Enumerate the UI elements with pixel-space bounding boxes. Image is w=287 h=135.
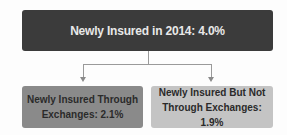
not-through-exchanges-line1: Newly Insured But Not bbox=[151, 85, 273, 100]
newly-insured-total-box: Newly Insured in 2014: 4.0% bbox=[22, 10, 273, 51]
connector-left-drop bbox=[83, 64, 84, 78]
connector-vertical bbox=[148, 51, 149, 64]
connector-horizontal bbox=[83, 64, 212, 65]
connector-right-drop bbox=[211, 64, 212, 78]
not-through-exchanges-box: Newly Insured But Not Through Exchanges:… bbox=[151, 86, 273, 128]
arrow-down-icon bbox=[80, 77, 86, 82]
arrow-down-icon bbox=[208, 77, 214, 82]
through-exchanges-line1: Newly Insured Through bbox=[27, 92, 138, 107]
through-exchanges-box: Newly Insured Through Exchanges: 2.1% bbox=[22, 86, 143, 128]
newly-insured-total-label: Newly Insured in 2014: 4.0% bbox=[70, 24, 225, 38]
through-exchanges-line2: Exchanges: 2.1% bbox=[27, 107, 138, 122]
not-through-exchanges-line2: Through Exchanges: 1.9% bbox=[151, 100, 273, 130]
